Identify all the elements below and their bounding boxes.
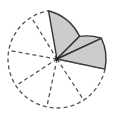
spoke-dashed-3 bbox=[47, 59, 57, 107]
spoke-dashed-4 bbox=[16, 59, 57, 86]
spoke-dashed-5 bbox=[9, 50, 57, 59]
fraction-circle-diagram bbox=[0, 0, 118, 114]
pie-chart-svg bbox=[0, 0, 118, 114]
center-point bbox=[55, 57, 59, 61]
spoke-dashed-2 bbox=[57, 59, 84, 100]
